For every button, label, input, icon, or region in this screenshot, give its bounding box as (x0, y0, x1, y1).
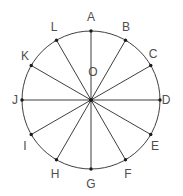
point-label-b: B (122, 21, 130, 33)
point-marker-b (124, 39, 127, 42)
point-marker-e (149, 133, 152, 136)
point-label-i: I (23, 140, 26, 152)
point-marker-l (55, 39, 58, 42)
point-marker-f (124, 158, 127, 161)
point-label-l: L (51, 21, 58, 33)
point-label-j: J (12, 94, 18, 106)
point-marker-a (89, 29, 92, 32)
radius-to-i (31, 100, 91, 135)
point-label-a: A (87, 11, 95, 23)
point-marker-g (89, 167, 92, 170)
radius-to-f (91, 100, 126, 160)
point-label-k: K (21, 50, 29, 62)
point-marker-o (89, 98, 93, 102)
point-marker-k (30, 64, 33, 67)
point-label-d: D (162, 94, 171, 106)
radius-to-c (91, 66, 151, 101)
radius-to-l (57, 40, 92, 100)
point-marker-h (55, 158, 58, 161)
point-label-c: C (149, 48, 158, 60)
point-label-f: F (124, 168, 131, 180)
point-label-e: E (151, 140, 159, 152)
point-marker-j (20, 98, 23, 101)
radius-to-h (57, 100, 92, 160)
center-point-label: O (88, 66, 97, 78)
point-label-h: H (51, 168, 60, 180)
point-marker-c (149, 64, 152, 67)
circle-diagram-svg (0, 0, 183, 196)
radius-to-k (31, 66, 91, 101)
point-label-g: G (86, 178, 95, 190)
radius-to-e (91, 100, 151, 135)
geometry-figure: ABCDEFGHIJKL O (0, 0, 183, 196)
point-marker-i (30, 133, 33, 136)
